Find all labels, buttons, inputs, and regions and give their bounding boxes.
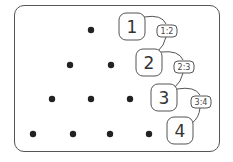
count-box-1: 1 [119, 13, 145, 40]
dot [30, 131, 36, 137]
dot [127, 96, 133, 102]
dot [67, 62, 73, 68]
count-boxes: 1 2 3 4 [119, 13, 193, 144]
count-label: 4 [175, 121, 186, 141]
count-box-4: 4 [167, 117, 193, 144]
dot [146, 131, 152, 137]
dot [70, 131, 76, 137]
arc-ratio-to-3 [175, 73, 183, 87]
ratio-label: 2:3 [178, 63, 191, 72]
ratio-label: 3:4 [195, 98, 208, 107]
count-label: 2 [144, 53, 155, 73]
count-label: 3 [159, 88, 170, 108]
count-box-2: 2 [136, 49, 162, 76]
diagram-canvas: 1 2 3 4 1:2 2:3 3:4 [0, 0, 233, 162]
ratio-pill-2: 2:3 [174, 61, 194, 73]
arc-ratio-to-2 [158, 37, 166, 51]
arc-3-to-ratio [177, 88, 200, 95]
dot [88, 96, 94, 102]
dot [49, 96, 55, 102]
ratio-pill-1: 1:2 [157, 25, 177, 37]
dot [88, 27, 94, 33]
ratio-label: 1:2 [161, 27, 174, 36]
arc-2-to-ratio [161, 52, 183, 60]
dot-row-4 [30, 131, 152, 137]
dot [108, 62, 114, 68]
arc-ratio-to-4 [192, 108, 200, 123]
arc-1-to-ratio [144, 16, 166, 24]
count-label: 1 [127, 17, 138, 37]
count-box-3: 3 [151, 84, 177, 111]
dot [107, 131, 113, 137]
dot-row-2 [67, 62, 114, 68]
dot-rows [30, 27, 152, 137]
dot-row-3 [49, 96, 133, 102]
ratio-pill-3: 3:4 [191, 96, 211, 108]
dot-row-1 [88, 27, 94, 33]
